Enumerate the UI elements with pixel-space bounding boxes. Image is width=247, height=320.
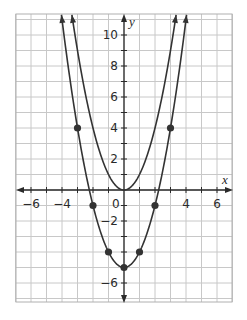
y-tick-label: 2 <box>110 152 118 166</box>
y-tick-label: 6 <box>110 90 118 104</box>
x-tick-label: −4 <box>53 197 71 211</box>
data-point <box>105 248 112 255</box>
data-point <box>120 264 127 271</box>
data-point <box>167 124 174 131</box>
x-tick-label: −6 <box>22 197 40 211</box>
y-tick-label: −6 <box>100 276 118 290</box>
y-tick-label: −2 <box>100 214 118 228</box>
data-point <box>74 124 81 131</box>
y-tick-label: 10 <box>103 28 118 42</box>
x-tick-label: 6 <box>213 197 221 211</box>
x-axis-label: x <box>221 172 228 187</box>
data-point <box>89 202 96 209</box>
y-axis-up-arrow-icon <box>121 14 127 22</box>
origin-label: 0 <box>112 197 120 211</box>
y-axis-label: y <box>127 14 135 29</box>
y-tick-label: 8 <box>110 59 118 73</box>
x-tick-label: 4 <box>182 197 190 211</box>
x-axis-left-arrow-icon <box>16 187 24 193</box>
data-point <box>136 248 143 255</box>
y-tick-label: 4 <box>110 121 118 135</box>
coordinate-plane: −6−446108642−2−6 x y 0 <box>0 0 247 320</box>
data-point <box>151 202 158 209</box>
